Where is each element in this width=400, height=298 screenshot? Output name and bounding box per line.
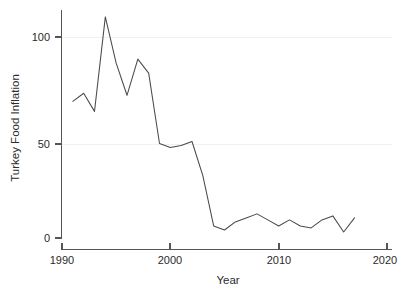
x-tick-label-2010: 2010 — [267, 254, 291, 266]
line-chart: 100 50 0 Turkey Food Inflation 1990 2000… — [0, 0, 400, 298]
y-tick-label-0: 0 — [44, 232, 50, 244]
x-tick-label-1990: 1990 — [50, 254, 74, 266]
gridlines — [62, 37, 392, 144]
x-axis-title: Year — [216, 274, 239, 286]
x-tick-label-2020: 2020 — [373, 254, 397, 266]
y-axis-title: Turkey Food Inflation — [9, 74, 21, 182]
y-axis: 100 50 0 Turkey Food Inflation — [9, 10, 62, 244]
x-axis: 1990 2000 2010 2020 Year — [50, 243, 397, 286]
chart-container: 100 50 0 Turkey Food Inflation 1990 2000… — [0, 0, 400, 298]
y-tick-label-100: 100 — [32, 31, 50, 43]
series-line-turkey-food-inflation — [73, 17, 355, 232]
x-tick-label-2000: 2000 — [158, 254, 182, 266]
y-tick-label-50: 50 — [38, 138, 50, 150]
